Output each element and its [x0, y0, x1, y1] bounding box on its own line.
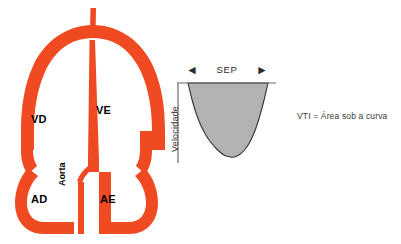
aortic-root-shape: [77, 166, 93, 183]
arrow-right-icon: ►: [256, 64, 268, 76]
figure-root: VD VE AD AE Aorta ◄ SEP ►: [0, 0, 401, 244]
sep-label: SEP: [217, 64, 238, 75]
y-axis-label: Velocidade: [170, 106, 180, 152]
left-ventricle-wall-shape: [136, 131, 152, 174]
label-left-ventricle: VE: [96, 104, 111, 116]
label-right-ventricle: VD: [31, 113, 47, 125]
arrow-left-icon: ◄: [186, 64, 198, 76]
right-atrium-inner-wall-shape: [62, 222, 74, 234]
label-left-atrium: AE: [100, 193, 116, 205]
vti-caption: VTI = Área sob a curva: [297, 111, 387, 121]
heart-diagram-svg: [0, 0, 170, 244]
aorta-left-border-shape: [78, 182, 84, 234]
heart-diagram: VD VE AD AE Aorta: [0, 0, 170, 244]
sep-annotation: ◄ SEP ►: [186, 62, 268, 77]
label-aorta: Aorta: [57, 162, 67, 186]
label-right-atrium: AD: [31, 193, 47, 205]
right-ventricle-wall-shape: [21, 131, 37, 174]
